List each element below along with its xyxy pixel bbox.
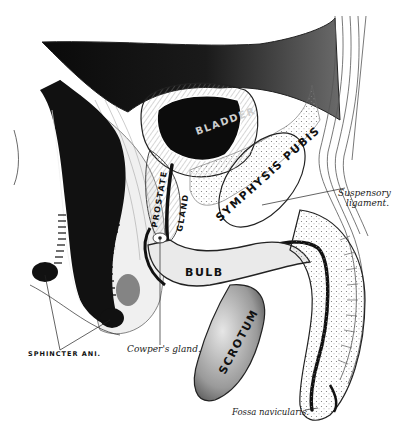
- cowpers-gland-label: Cowper's gland.: [127, 344, 201, 354]
- suspensory-ligament-label-line1: Suspensory: [338, 188, 392, 198]
- sphincter-ani-label: SPHINCTER ANI.: [28, 350, 101, 358]
- suspensory-ligament-label-line2: ligament.: [346, 198, 389, 208]
- bulb-label: BULB: [185, 266, 224, 279]
- scrotum: SCROTUM: [194, 285, 264, 401]
- penis: [290, 210, 365, 420]
- fossa-navicularis-label: Fossa navicularis.: [231, 407, 309, 417]
- anatomical-illustration: BLADDER PROSTATE GLAND SYMPHYSIS PUBIS B…: [0, 0, 402, 433]
